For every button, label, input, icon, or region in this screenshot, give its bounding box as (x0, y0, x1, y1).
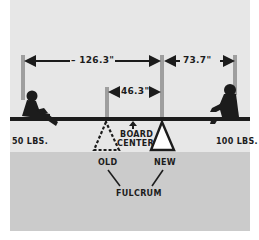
new-fulcrum-icon (151, 122, 174, 150)
fulcrum-label: FULCRUM (116, 189, 162, 198)
old-fulcrum-label: OLD (98, 158, 117, 167)
left-span-dimension: – 126.3" (71, 56, 114, 65)
board-center-arrow-icon (129, 121, 137, 129)
left-weight-label: 50 LBS. (12, 137, 48, 146)
fulcrum-pointer-lines (108, 170, 163, 186)
board-center-label-line2: CENTER (117, 139, 154, 148)
board-center-label-line1: BOARD (120, 130, 153, 139)
right-span-dimension: 73.7" (183, 56, 211, 65)
right-weight-label: 100 LBS. (216, 137, 258, 146)
old-fulcrum-icon (94, 122, 119, 150)
seesaw-diagram (0, 0, 259, 240)
fulcrum-shift-dimension: 46.3" (121, 87, 149, 96)
new-fulcrum-label: NEW (154, 158, 176, 167)
